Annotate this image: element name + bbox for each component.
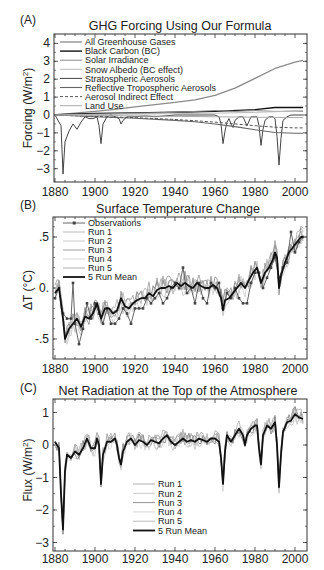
observation-marker: [158, 292, 161, 295]
y-tick-label: −2: [35, 503, 49, 517]
y-tick-label: −3: [35, 536, 49, 550]
panel-c-label: (C): [20, 381, 37, 395]
x-tick-label: 1920: [122, 185, 149, 199]
panel-a-title: GHG Forcing Using Our Formula: [89, 19, 272, 33]
panel-c-title: Net Radiation at the Top of the Atmosphe…: [59, 384, 298, 398]
legend-entry: 5 Run Mean: [88, 272, 137, 282]
panel-c-ylabel: Flux (W/m2): [21, 438, 36, 501]
observation-marker: [154, 297, 157, 300]
x-tick-label: 1960: [202, 185, 229, 199]
panel-c: (C) Net Radiation at the Top of the Atmo…: [20, 381, 309, 566]
observation-marker: [118, 317, 121, 320]
observation-marker: [250, 282, 253, 285]
panel-a: (A) GHG Forcing Using Our Formula Forcin…: [20, 13, 309, 199]
y-tick-label: −1: [36, 126, 50, 140]
observation-marker: [72, 282, 75, 285]
series-line: [55, 115, 303, 174]
legend-marker: [73, 222, 76, 225]
x-tick-label: 1880: [42, 552, 69, 566]
panel-b-label: (B): [20, 198, 36, 212]
x-tick-label: 1880: [42, 362, 69, 376]
observation-marker: [142, 307, 145, 310]
y-tick-label: 2: [43, 72, 50, 86]
observation-marker: [66, 317, 69, 320]
x-tick-label: 2000: [282, 362, 309, 376]
observation-marker: [130, 322, 133, 325]
x-tick-label: 2000: [282, 185, 309, 199]
figure-three-panel-chart: (A) GHG Forcing Using Our Formula Forcin…: [0, 0, 324, 570]
x-tick-label: 1960: [202, 552, 229, 566]
y-tick-label: -.5: [35, 332, 49, 346]
x-tick-label: 1980: [242, 362, 269, 376]
observation-marker: [294, 251, 297, 254]
legend-entry: Land Use: [85, 101, 124, 111]
x-tick-label: 1920: [122, 362, 149, 376]
y-tick-label: 3: [43, 54, 50, 68]
panel-c-legend: Run 1Run 2Run 3Run 4Run 55 Run Mean: [133, 479, 207, 536]
x-tick-label: 1980: [242, 185, 269, 199]
observation-marker: [150, 302, 153, 305]
y-tick-label: 0.: [39, 281, 49, 295]
y-tick-label: −1: [35, 471, 49, 485]
observation-marker: [202, 297, 205, 300]
x-tick-label: 1900: [82, 185, 109, 199]
observation-marker: [114, 322, 117, 325]
observation-marker: [186, 292, 189, 295]
y-tick-label: .5: [39, 230, 49, 244]
x-tick-label: 1900: [82, 362, 109, 376]
observation-marker: [206, 302, 209, 305]
observation-marker: [218, 282, 221, 285]
x-tick-label: 1940: [162, 185, 189, 199]
observation-marker: [194, 302, 197, 305]
panel-a-label: (A): [20, 13, 36, 27]
x-tick-label: 1880: [42, 185, 69, 199]
panel-b-legend: ObservationsRun 1Run 2Run 3Run 4Run 55 R…: [63, 218, 142, 282]
panel-b: (B) Surface Temperature Change ΔT (°C) 1…: [20, 198, 309, 376]
observation-marker: [266, 277, 269, 280]
panel-b-title: Surface Temperature Change: [96, 202, 260, 216]
observation-marker: [102, 322, 105, 325]
observation-marker: [246, 302, 249, 305]
observation-marker: [226, 292, 229, 295]
x-tick-label: 1920: [122, 552, 149, 566]
observation-marker: [70, 317, 73, 320]
x-tick-label: 1940: [162, 552, 189, 566]
observation-marker: [290, 231, 293, 234]
observation-marker: [262, 287, 265, 290]
observation-marker: [166, 297, 169, 300]
x-tick-label: 1960: [202, 362, 229, 376]
observation-marker: [138, 307, 141, 310]
observation-marker: [178, 287, 181, 290]
observation-marker: [238, 297, 241, 300]
y-tick-label: 0: [42, 438, 49, 452]
y-tick-label: 1: [42, 406, 49, 420]
observation-marker: [210, 282, 213, 285]
panel-b-ylabel: ΔT (°C): [21, 270, 35, 310]
observation-marker: [54, 297, 57, 300]
panel-a-ylabel: Forcing (W/m2): [21, 68, 36, 148]
y-tick-label: −3: [36, 162, 50, 176]
legend-entry: 5 Run Mean: [158, 526, 207, 536]
x-tick-label: 1980: [242, 552, 269, 566]
observation-marker: [110, 322, 113, 325]
observation-marker: [86, 302, 89, 305]
y-tick-label: 0: [43, 108, 50, 122]
y-tick-label: 4: [43, 36, 50, 50]
x-tick-label: 2000: [282, 552, 309, 566]
observation-marker: [242, 302, 245, 305]
observation-marker: [78, 343, 81, 346]
y-tick-label: 1: [43, 90, 50, 104]
y-tick-label: −2: [36, 144, 50, 158]
x-tick-label: 1940: [162, 362, 189, 376]
observation-marker: [122, 307, 125, 310]
observation-marker: [182, 266, 185, 269]
observation-marker: [134, 307, 137, 310]
x-tick-label: 1900: [82, 552, 109, 566]
observation-marker: [126, 312, 129, 315]
observation-marker: [82, 328, 85, 331]
observation-marker: [162, 302, 165, 305]
